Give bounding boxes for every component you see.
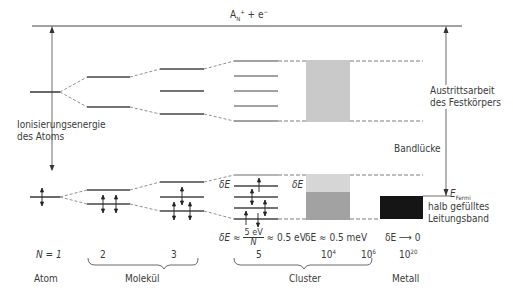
fermi-level-label: EFermi xyxy=(450,188,471,200)
n-molecule-2: 2 xyxy=(100,249,106,261)
n-molecule-3: 3 xyxy=(171,249,177,261)
metal-filled-band xyxy=(380,196,423,219)
cluster-large-delta-label: δE xyxy=(292,179,303,191)
n-cluster-5: 5 xyxy=(256,249,262,261)
work-function-label: Austrittsarbeit des Festkörpers xyxy=(429,85,502,109)
n-cluster-1e6: 106 xyxy=(361,249,376,261)
category-molecule: Molekül xyxy=(125,273,159,285)
arrowhead-up-icon xyxy=(50,26,55,33)
electron-spin-arrows xyxy=(41,178,267,227)
arrowhead-down-icon xyxy=(50,165,55,171)
cluster-small-delta-label: δE xyxy=(219,179,230,191)
ionized-state-label: AN+ + e− xyxy=(230,9,268,21)
category-metal: Metall xyxy=(392,273,419,285)
n-cluster-1e4: 104 xyxy=(321,249,336,261)
ionization-energy-label: Ionisierungsenergie des Atoms xyxy=(17,119,106,143)
cluster-large-spacing-value: δE ≈ 0.5 meV xyxy=(305,232,367,244)
n-atom: N = 1 xyxy=(36,249,62,261)
cluster-upper-band xyxy=(306,61,350,121)
category-atom: Atom xyxy=(34,273,58,285)
cluster-spacing-formula: δE ≈ 5 eVN ≈ 0.5 eV xyxy=(219,228,306,247)
cluster-brace xyxy=(234,258,372,269)
cluster-lower-band xyxy=(306,175,350,219)
category-cluster: Cluster xyxy=(289,273,321,285)
conduction-band-label: halb gefülltes Leitungsband xyxy=(428,201,489,225)
n-metal: 1020 xyxy=(399,249,417,261)
band-gap-label: Bandlücke xyxy=(394,143,441,155)
metal-spacing-value: δE ⟶ 0 xyxy=(385,232,421,244)
